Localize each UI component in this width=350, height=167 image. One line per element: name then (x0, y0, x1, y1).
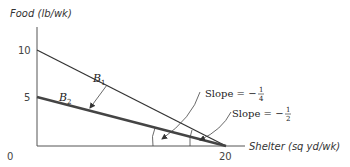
origin-label: 0 (7, 151, 13, 162)
y-tick-5: 5 (24, 92, 30, 103)
b1-label: B1 (92, 72, 106, 87)
slope-quarter-den: 4 (259, 95, 264, 103)
b2-label: B2 (58, 91, 72, 106)
y-axis-title: Food (lb/wk) (10, 8, 72, 19)
slope-quarter-num: 1 (259, 86, 263, 94)
y-tick-10: 10 (18, 45, 31, 56)
x-tick-20: 20 (219, 151, 232, 162)
shift-arrow (90, 85, 107, 108)
slope-half-den: 2 (286, 115, 290, 123)
slope-half-label: Slope = − (232, 108, 284, 119)
slope-quarter-label: Slope = − (205, 88, 257, 99)
x-axis-title: Shelter (sq yd/wk) (249, 141, 340, 152)
angle-arc-b2 (152, 128, 155, 146)
budget-constraint-diagram: Food (lb/wk) Shelter (sq yd/wk) 10 5 0 2… (0, 0, 350, 167)
slope-half-num: 1 (286, 106, 290, 114)
budget-line-b2 (37, 97, 226, 146)
